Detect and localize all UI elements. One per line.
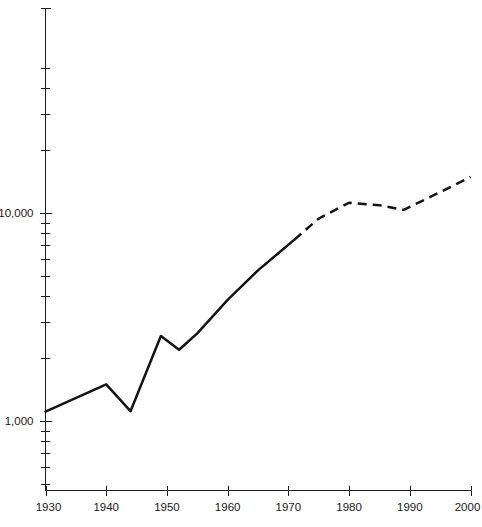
x-tick-label: 1940 <box>93 501 119 513</box>
x-tick-label: 1950 <box>154 501 180 513</box>
x-tick-label: 1930 <box>36 501 62 513</box>
y-tick-label: 1,000 <box>5 415 34 427</box>
x-tick-label: 1980 <box>336 501 362 513</box>
x-tick-label: 2000 <box>455 501 481 513</box>
x-tick-label: 1960 <box>215 501 241 513</box>
chart-background <box>0 0 482 527</box>
y-tick-label: 10,000 <box>0 207 34 219</box>
x-tick-label: 1970 <box>276 501 302 513</box>
line-chart: 1,00010,000 1930194019501960197019801990… <box>0 0 482 527</box>
x-tick-label: 1990 <box>397 501 423 513</box>
chart-container: 1,00010,000 1930194019501960197019801990… <box>0 0 482 527</box>
